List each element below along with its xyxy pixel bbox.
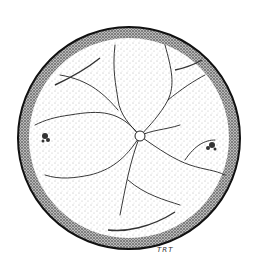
artist-signature: TRT [157,246,173,254]
optic-disc [135,131,145,141]
fundus-illustration [0,0,260,273]
fundus-disc [18,27,240,249]
